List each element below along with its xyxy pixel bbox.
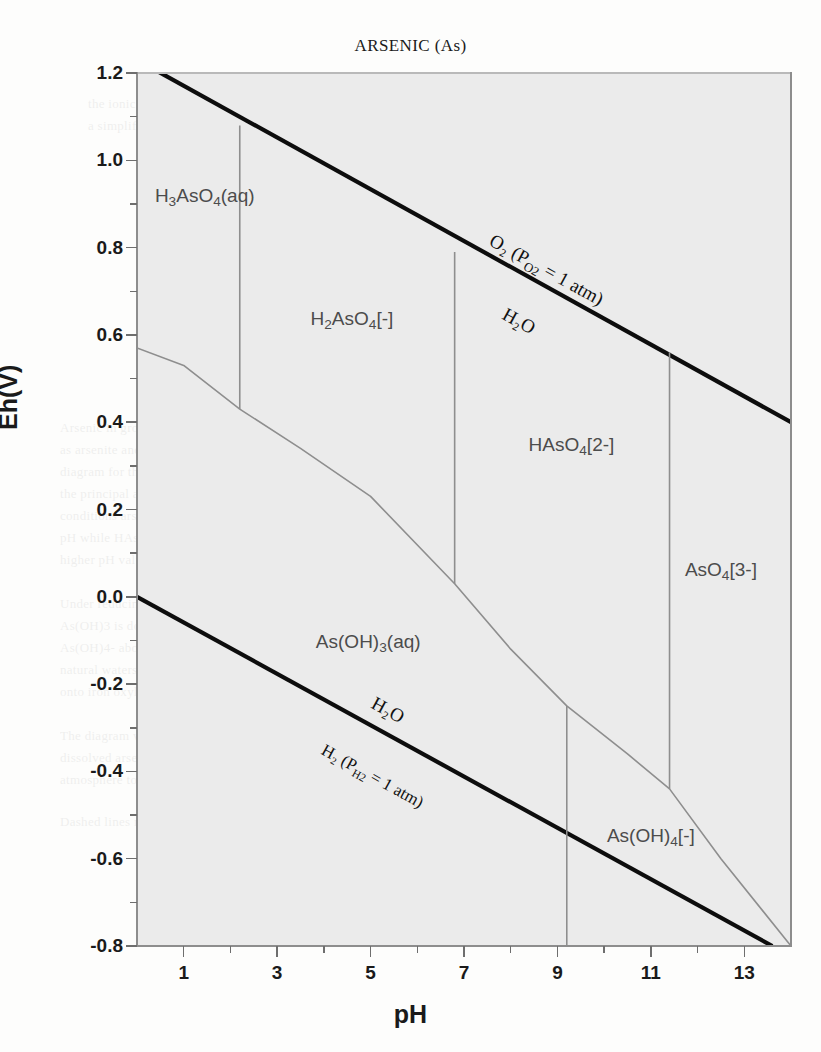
x-tick-minor — [230, 946, 232, 953]
x-tick-major — [183, 946, 185, 957]
plot-frame-right — [790, 72, 792, 947]
y-tick-label: -0.2 — [63, 673, 123, 695]
species-label-asoh4: As(OH)4[-] — [607, 824, 695, 849]
y-tick-minor — [130, 116, 137, 118]
y-tick-major — [126, 683, 137, 685]
x-tick-major — [557, 946, 559, 957]
y-tick-major — [126, 334, 137, 336]
y-tick-major — [126, 945, 137, 947]
y-tick-major — [126, 247, 137, 249]
y-tick-minor — [130, 552, 137, 554]
boundary-line — [137, 73, 791, 422]
y-tick-label: -0.8 — [63, 935, 123, 957]
y-tick-label: -0.6 — [63, 848, 123, 870]
plot-frame-top — [136, 72, 792, 74]
x-tick-minor — [510, 946, 512, 953]
x-tick-label: 13 — [724, 962, 764, 984]
y-tick-minor — [130, 291, 137, 293]
x-tick-label: 9 — [537, 962, 577, 984]
x-tick-major — [744, 946, 746, 957]
y-tick-minor — [130, 902, 137, 904]
y-tick-label: 0.0 — [63, 586, 123, 608]
species-label-haso4: HAsO4[2-] — [529, 434, 615, 459]
y-tick-label: 0.4 — [63, 411, 123, 433]
y-tick-label: 0.2 — [63, 499, 123, 521]
y-tick-major — [126, 858, 137, 860]
x-tick-minor — [417, 946, 419, 953]
x-axis-title: pH — [0, 1000, 821, 1029]
x-tick-label: 1 — [164, 962, 204, 984]
y-tick-minor — [130, 727, 137, 729]
y-tick-minor — [130, 203, 137, 205]
species-label-h3aso4: H3AsO4(aq) — [155, 185, 255, 210]
chart-title: ARSENIC (As) — [0, 36, 821, 56]
y-tick-major — [126, 72, 137, 74]
y-tick-label: 1.0 — [63, 149, 123, 171]
plot-area: H3AsO4(aq)H2AsO4[-]HAsO4[2-]AsO4[3-]As(O… — [137, 73, 791, 946]
y-tick-minor — [130, 378, 137, 380]
boundary-line — [137, 348, 791, 946]
boundary-line — [137, 597, 772, 946]
y-tick-major — [126, 509, 137, 511]
x-tick-major — [650, 946, 652, 957]
y-tick-label: 0.6 — [63, 324, 123, 346]
x-tick-minor — [697, 946, 699, 953]
species-label-h2aso4: H2AsO4[-] — [310, 307, 393, 332]
y-tick-minor — [130, 465, 137, 467]
y-tick-label: -0.4 — [63, 760, 123, 782]
y-tick-label: 1.2 — [63, 62, 123, 84]
y-tick-major — [126, 160, 137, 162]
y-tick-minor — [130, 814, 137, 816]
x-tick-major — [463, 946, 465, 957]
y-tick-major — [126, 771, 137, 773]
species-label-aso4: AsO4[3-] — [685, 558, 757, 583]
x-tick-major — [276, 946, 278, 957]
y-tick-label: 0.8 — [63, 237, 123, 259]
y-tick-minor — [130, 640, 137, 642]
x-tick-label: 5 — [351, 962, 391, 984]
x-tick-minor — [323, 946, 325, 953]
y-tick-major — [126, 596, 137, 598]
x-tick-label: 11 — [631, 962, 671, 984]
x-tick-major — [370, 946, 372, 957]
y-tick-major — [126, 421, 137, 423]
y-axis-title: Eh(V) — [0, 365, 23, 430]
x-tick-label: 7 — [444, 962, 484, 984]
species-label-asoh3: As(OH)3(aq) — [316, 630, 421, 655]
x-tick-minor — [603, 946, 605, 953]
x-tick-label: 3 — [257, 962, 297, 984]
